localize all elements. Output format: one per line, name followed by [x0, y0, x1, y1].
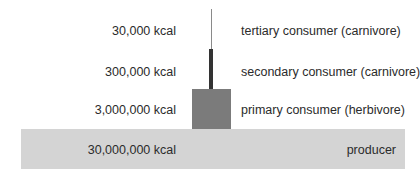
primary-level-label: primary consumer (herbivore)	[241, 103, 405, 117]
secondary-consumer-bar	[209, 49, 213, 89]
producer-level-label: producer	[347, 143, 396, 157]
producer-energy-label: 30,000,000 kcal	[88, 143, 176, 157]
tertiary-energy-label: 30,000 kcal	[112, 24, 176, 38]
tertiary-level-label: tertiary consumer (carnivore)	[241, 24, 401, 38]
primary-energy-label: 3,000,000 kcal	[95, 103, 176, 117]
tertiary-consumer-bar	[211, 9, 212, 49]
primary-consumer-bar	[192, 89, 231, 129]
secondary-energy-label: 300,000 kcal	[105, 65, 176, 79]
secondary-level-label: secondary consumer (carnivore)	[241, 65, 420, 79]
